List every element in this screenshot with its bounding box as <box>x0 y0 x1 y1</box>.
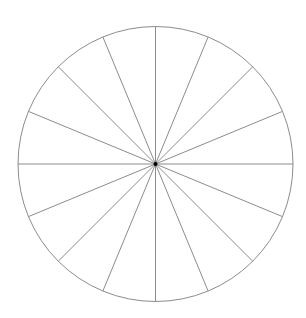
center-point <box>154 162 158 166</box>
segmented-circle-diagram <box>0 0 306 318</box>
